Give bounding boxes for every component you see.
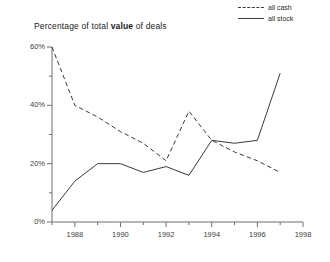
- y-axis-tick-label: 60%: [21, 42, 45, 51]
- x-axis-tick-label: 1998: [288, 230, 318, 239]
- chart-container: Percentage of total value of deals all c…: [0, 0, 330, 262]
- x-axis-tick-label: 1996: [242, 230, 272, 239]
- y-axis-tick-label: 20%: [21, 159, 45, 168]
- y-axis-tick-label: 40%: [21, 100, 45, 109]
- y-axis-tick-label: 0%: [21, 217, 45, 226]
- series-line-all-stock: [52, 73, 280, 210]
- chart-plot: [0, 0, 330, 262]
- x-axis-tick-label: 1992: [151, 230, 181, 239]
- x-axis-tick-label: 1994: [197, 230, 227, 239]
- x-axis-tick-label: 1990: [105, 230, 135, 239]
- x-axis-tick-label: 1988: [60, 230, 90, 239]
- series-line-all-cash: [52, 47, 280, 172]
